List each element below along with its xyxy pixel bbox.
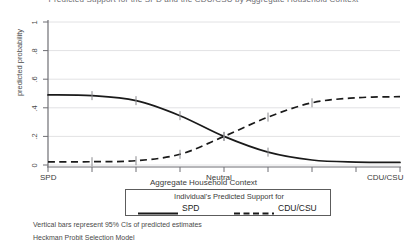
legend-item-cducsu[interactable]: CDU/CSU [234, 203, 317, 213]
y-tick-08: .8 [30, 43, 39, 59]
y-axis-ticks [43, 22, 48, 165]
legend-label-cducsu: CDU/CSU [278, 203, 317, 213]
gridlines [48, 22, 400, 165]
footnote-model-note: Heckman Probit Selection Model [33, 234, 135, 241]
series-line-cducsu [48, 97, 400, 162]
legend-title: Individual's Predicted Support for [126, 192, 332, 201]
y-tick-02: .2 [30, 129, 39, 145]
legend-label-spd: SPD [182, 203, 199, 213]
y-axis-label: predicted probability [15, 8, 24, 118]
y-tick-06: .6 [30, 72, 39, 88]
series-line-spd [48, 95, 400, 162]
y-tick-1: 1 [30, 15, 39, 31]
chart-figure: Predicted Support for the SPD and the CD… [0, 0, 407, 250]
legend-swatch-dashed-icon [234, 204, 274, 213]
footnote-ci-note: Vertical bars represent 95% CIs of predi… [33, 221, 202, 228]
axis-lines [47, 20, 401, 167]
x-axis-label: Aggregate Household Context [0, 178, 407, 187]
y-tick-0: 0 [30, 158, 39, 174]
chart-legend: Individual's Predicted Support for SPD C… [125, 189, 331, 216]
legend-entries: SPD CDU/CSU [126, 203, 332, 216]
x-axis-ticks [48, 167, 400, 172]
legend-swatch-solid-icon [138, 204, 178, 213]
y-tick-04: .4 [30, 100, 39, 116]
legend-item-spd[interactable]: SPD [138, 203, 199, 213]
